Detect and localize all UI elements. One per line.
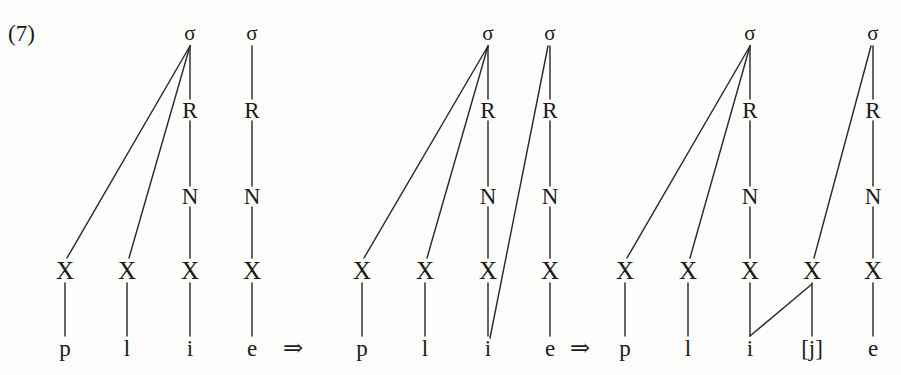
stage-1-underlying-edge-sigma1-to-x-p [67,46,190,258]
stage-1-underlying-rhyme-node-1: R [182,99,197,122]
stage-3-glide-formation-edge-sigma2-to-x-j [814,46,871,258]
example-number: (7) [8,22,35,45]
stage-2-resyllabification-skeletal-slot-1: X [353,258,371,283]
stage-3-glide-formation-segment-2: l [685,337,691,360]
stage-3-glide-formation-skeletal-slot-3: X [741,258,759,283]
stage-1-underlying-sigma-node-2: σ [246,23,257,44]
derivation-arrow-1: ⇒ [283,336,303,360]
stage-1-underlying-skeletal-slot-3: X [181,258,199,283]
stage-3-glide-formation-segment-1: p [619,337,631,360]
stage-2-resyllabification-segment-4: e [545,337,555,360]
stage-3-glide-formation-edge-sigma1-to-x-l [690,46,750,258]
stage-1-underlying-nucleus-node-2: N [244,185,261,208]
stage-2-resyllabification-rhyme-node-2: R [542,99,557,122]
stage-3-glide-formation-rhyme-node-2: R [865,99,880,122]
stage-1-underlying-skeletal-slot-4: X [243,258,261,283]
stage-1-underlying-skeletal-slot-2: X [118,258,136,283]
stage-3-glide-formation-segment-3: i [747,337,753,360]
stage-3-glide-formation-nucleus-node-2: N [865,185,882,208]
stage-3-glide-formation-edge-seg-i-to-x-j-spread [750,284,812,336]
stage-2-resyllabification-sigma-node-1: σ [482,23,493,44]
stage-3-glide-formation-nucleus-node-1: N [742,185,759,208]
stage-3-glide-formation-rhyme-node-1: R [742,99,757,122]
stage-1-underlying-edge-sigma1-to-x-l [129,46,190,258]
stage-2-resyllabification-edge-sigma2-to-seg-i-spread [490,46,548,338]
stage-1-underlying-segment-1: p [59,337,71,360]
stage-2-resyllabification-skeletal-slot-2: X [416,258,434,283]
stage-1-underlying-segment-4: e [247,337,257,360]
stage-2-resyllabification-segment-1: p [356,337,368,360]
stage-2-resyllabification-edge-sigma1-to-x-l [427,46,488,258]
stage-1-underlying-sigma-node-1: σ [184,23,195,44]
derivation-arrow-2: ⇒ [570,336,590,360]
stage-2-resyllabification-rhyme-node-1: R [480,99,495,122]
stage-1-underlying-segment-3: i [187,337,193,360]
stage-2-resyllabification-sigma-node-2: σ [544,23,555,44]
stage-3-glide-formation-skeletal-slot-2: X [679,258,697,283]
stage-1-underlying-rhyme-node-2: R [244,99,259,122]
stage-3-glide-formation-segment-5: e [868,337,878,360]
syllable-derivation-figure: (7) σRNσRNXXXXplieσRNσRNXXXXplieσRNσRNXX… [0,0,901,375]
stage-3-glide-formation-edge-sigma1-to-x-p [627,46,750,258]
stage-1-underlying-nucleus-node-1: N [182,185,199,208]
stage-2-resyllabification-segment-2: l [422,337,428,360]
stage-3-glide-formation-sigma-node-1: σ [744,23,755,44]
stage-3-glide-formation-skeletal-slot-1: X [616,258,634,283]
stage-3-glide-formation-segment-4: [j] [801,337,823,360]
stage-1-underlying-segment-2: l [124,337,130,360]
tree-edge-layer [0,0,901,375]
stage-3-glide-formation-sigma-node-2: σ [867,23,878,44]
stage-2-resyllabification-edge-sigma1-to-x-p [364,46,488,258]
stage-3-glide-formation-skeletal-slot-4: X [803,258,821,283]
stage-1-underlying-skeletal-slot-1: X [56,258,74,283]
stage-3-glide-formation-skeletal-slot-5: X [864,258,882,283]
stage-2-resyllabification-skeletal-slot-4: X [541,258,559,283]
stage-2-resyllabification-nucleus-node-2: N [542,185,559,208]
stage-2-resyllabification-segment-3: i [485,337,491,360]
stage-2-resyllabification-skeletal-slot-3: X [479,258,497,283]
stage-2-resyllabification-nucleus-node-1: N [480,185,497,208]
